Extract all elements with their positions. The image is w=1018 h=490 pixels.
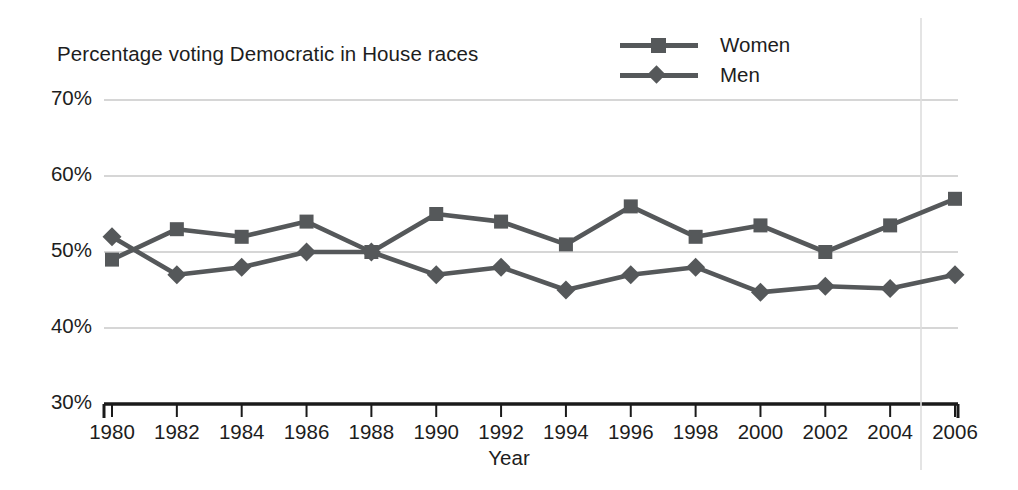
data-point-marker [103, 227, 122, 246]
x-axis-title: Year [0, 446, 1018, 470]
data-point-marker [105, 253, 119, 267]
data-point-marker [816, 277, 835, 296]
y-axis-tick-label: 60% [22, 162, 92, 186]
data-point-marker [621, 265, 640, 284]
data-point-marker [429, 207, 443, 221]
series-men [103, 227, 965, 301]
data-point-marker [492, 258, 511, 277]
data-point-marker [494, 215, 508, 229]
data-point-marker [689, 230, 703, 244]
x-axis-tick-label: 1992 [466, 420, 536, 444]
data-point-marker [948, 192, 962, 206]
data-point-marker [818, 245, 832, 259]
data-point-marker [297, 243, 316, 262]
x-axis-tick-label: 1984 [207, 420, 277, 444]
data-point-marker [559, 237, 573, 251]
x-axis-tick-label: 1998 [661, 420, 731, 444]
x-axis-tick-label: 1996 [596, 420, 666, 444]
data-point-marker [167, 265, 186, 284]
series-women [105, 192, 962, 267]
y-axis-tick-label: 40% [22, 314, 92, 338]
data-point-marker [427, 265, 446, 284]
x-axis-tick-label: 1988 [336, 420, 406, 444]
data-point-marker [751, 283, 770, 302]
y-axis-tick-label: 70% [22, 86, 92, 110]
data-point-marker [556, 281, 575, 300]
x-axis-tick-label: 1982 [142, 420, 212, 444]
data-point-marker [946, 265, 965, 284]
x-axis-tick-label: 1994 [531, 420, 601, 444]
data-point-marker [300, 215, 314, 229]
x-axis-tick-label: 1986 [272, 420, 342, 444]
x-axis-tick-label: 2006 [920, 420, 990, 444]
data-point-marker [235, 230, 249, 244]
data-point-marker [686, 258, 705, 277]
data-point-marker [883, 218, 897, 232]
data-point-marker [624, 199, 638, 213]
x-axis-tick-label: 2002 [790, 420, 860, 444]
x-axis-tick-label: 1990 [401, 420, 471, 444]
x-axis-ticks [112, 404, 955, 417]
x-axis-tick-label: 1980 [77, 420, 147, 444]
plot-area [0, 0, 1018, 490]
y-axis-tick-label: 50% [22, 238, 92, 262]
chart-figure: Percentage voting Democratic in House ra… [0, 0, 1018, 490]
y-axis-tick-label: 30% [22, 390, 92, 414]
data-point-marker [881, 279, 900, 298]
data-point-marker [170, 222, 184, 236]
data-point-marker [753, 218, 767, 232]
x-axis-tick-label: 2000 [725, 420, 795, 444]
x-axis-tick-label: 2004 [855, 420, 925, 444]
data-series-layer [103, 192, 965, 302]
data-point-marker [232, 258, 251, 277]
